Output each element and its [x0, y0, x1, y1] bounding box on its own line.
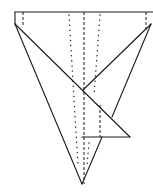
- dashed-crease-lines: [23, 12, 146, 184]
- lower-dotted-fold: [87, 143, 89, 165]
- left-outer-edge: [15, 24, 82, 184]
- right-dotted-fold-upper: [94, 15, 100, 96]
- right-outer-edge: [112, 24, 151, 117]
- lower-flap-edge: [82, 137, 102, 184]
- right-upper-diagonal: [83, 24, 151, 90]
- left-dotted-fold: [69, 15, 78, 165]
- long-diagonal: [15, 24, 130, 137]
- fold-diagram: [0, 0, 153, 194]
